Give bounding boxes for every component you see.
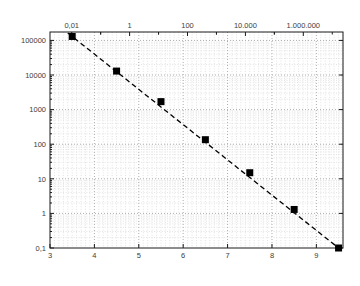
- top-tick-label: 100: [181, 21, 194, 30]
- chart-canvas: 34567891000001000010001001010,10,0111001…: [0, 0, 360, 286]
- x-tick-label: 4: [92, 251, 96, 260]
- y-tick-label: 100: [33, 140, 46, 149]
- data-point-marker: [246, 169, 253, 176]
- y-tick-label: 0,1: [36, 244, 46, 253]
- data-point-marker: [202, 136, 209, 143]
- data-point-marker: [335, 245, 342, 252]
- top-tick-label: 1.000.000: [287, 21, 320, 30]
- top-tick-label: 10.000: [234, 21, 257, 30]
- x-tick-label: 6: [181, 251, 185, 260]
- x-tick-label: 3: [48, 251, 52, 260]
- data-point-marker: [69, 33, 76, 40]
- y-tick-label: 1000: [29, 105, 46, 114]
- x-tick-label: 7: [225, 251, 229, 260]
- y-tick-label: 100000: [21, 36, 46, 45]
- x-tick-label: 9: [314, 251, 318, 260]
- x-tick-label: 5: [137, 251, 141, 260]
- y-tick-label: 1: [42, 209, 46, 218]
- y-tick-label: 10000: [25, 71, 46, 80]
- earthquake-frequency-figure: freigesetzte Energie [TeraJoule] mittler…: [0, 0, 360, 286]
- data-point-marker: [113, 68, 120, 75]
- top-tick-label: 0,01: [64, 21, 79, 30]
- x-tick-label: 8: [270, 251, 274, 260]
- top-tick-label: 1: [128, 21, 132, 30]
- y-tick-label: 10: [38, 175, 46, 184]
- data-point-marker: [157, 98, 164, 105]
- data-point-marker: [291, 206, 298, 213]
